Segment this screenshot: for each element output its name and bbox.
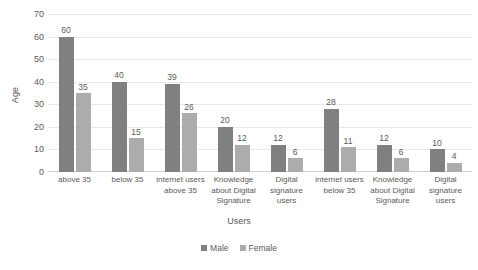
bar-value-label: 10 [432,139,441,148]
bar-group: 126 [260,14,313,172]
bar-slot: 26 [182,14,197,172]
x-axis-category-label: Digital signature users [419,175,472,215]
bar-value-label: 6 [293,148,298,157]
x-axis-category-label: Knowledge about Digital Signature [366,175,419,215]
bar-value-label: 28 [326,98,335,107]
x-axis-category-label: internet users above 35 [154,175,207,215]
y-axis-tick-labels: 010203040506070 [22,14,44,172]
y-axis-title: Age [8,0,22,190]
bar-male[interactable] [324,109,339,172]
x-axis-category-label: internet users below 35 [313,175,366,215]
bar-value-label: 11 [344,137,353,146]
legend-item-female[interactable]: Female [240,243,277,253]
bar-female[interactable] [341,147,356,172]
bar-female[interactable] [394,158,409,172]
y-axis-tick-label: 20 [34,122,44,132]
x-axis-category-label: above 35 [48,175,101,215]
bar-male[interactable] [59,37,74,172]
bar-male[interactable] [218,127,233,172]
bar-group: 2012 [207,14,260,172]
bar-female[interactable] [129,138,144,172]
plot-area: 60354015392620121262811126104 [48,14,472,172]
x-axis-category-label: Digital signature users [260,175,313,215]
bar-value-label: 39 [167,73,176,82]
chart-legend: MaleFemale [0,243,478,253]
bar-male[interactable] [377,145,392,172]
bar-value-label: 26 [184,103,193,112]
bar-slot: 12 [271,14,286,172]
bar-group: 126 [366,14,419,172]
y-axis-tick-label: 10 [34,144,44,154]
bar-male[interactable] [430,149,445,172]
bar-value-label: 12 [379,134,388,143]
bar-female[interactable] [235,145,250,172]
x-axis-category-labels: above 35below 35internet users above 35K… [48,175,472,215]
x-axis-category-label: Knowledge about Digital Signature [207,175,260,215]
bar-male[interactable] [112,82,127,172]
y-axis-tick-label: 70 [34,9,44,19]
bar-female[interactable] [182,113,197,172]
legend-label: Female [249,243,277,253]
y-axis-tick-label: 30 [34,99,44,109]
bar-slot: 12 [235,14,250,172]
y-axis-tick-label: 50 [34,54,44,64]
bar-slot: 6 [394,14,409,172]
bar-slot: 60 [59,14,74,172]
bar-value-label: 60 [61,26,70,35]
legend-label: Male [210,243,228,253]
bar-group: 104 [419,14,472,172]
bar-value-label: 40 [114,71,123,80]
bar-value-label: 12 [273,134,282,143]
legend-item-male[interactable]: Male [201,243,228,253]
y-axis-tick-label: 0 [39,167,44,177]
bar-slot: 11 [341,14,356,172]
bar-value-label: 12 [237,134,246,143]
bar-male[interactable] [165,84,180,172]
bars-layer: 60354015392620121262811126104 [48,14,472,172]
bar-slot: 40 [112,14,127,172]
x-axis-title: Users [0,216,478,226]
bar-female[interactable] [76,93,91,172]
bar-group: 6035 [48,14,101,172]
bar-slot: 4 [447,14,462,172]
bar-group: 3926 [154,14,207,172]
bar-male[interactable] [271,145,286,172]
bar-value-label: 20 [220,116,229,125]
bar-female[interactable] [447,163,462,172]
legend-swatch-icon [240,245,246,251]
bar-slot: 39 [165,14,180,172]
y-axis-title-text: Age [10,87,20,104]
bar-female[interactable] [288,158,303,172]
bar-group: 4015 [101,14,154,172]
bar-chart: Age 010203040506070 60354015392620121262… [0,0,478,270]
bar-slot: 28 [324,14,339,172]
bar-value-label: 6 [399,148,404,157]
bar-slot: 15 [129,14,144,172]
bar-slot: 35 [76,14,91,172]
legend-swatch-icon [201,245,207,251]
bar-group: 2811 [313,14,366,172]
bar-value-label: 4 [452,152,457,161]
bar-value-label: 15 [131,128,140,137]
y-axis-tick-label: 60 [34,32,44,42]
y-axis-tick-label: 40 [34,77,44,87]
bar-slot: 12 [377,14,392,172]
bar-value-label: 35 [78,83,87,92]
bar-slot: 20 [218,14,233,172]
x-axis-category-label: below 35 [101,175,154,215]
bar-slot: 10 [430,14,445,172]
bar-slot: 6 [288,14,303,172]
